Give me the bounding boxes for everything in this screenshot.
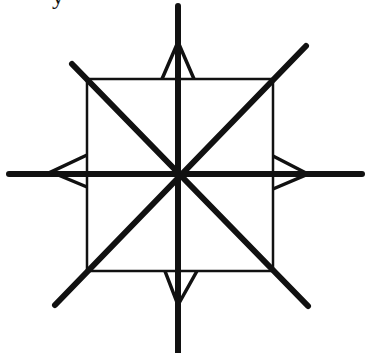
star-square-diagram (0, 0, 365, 353)
